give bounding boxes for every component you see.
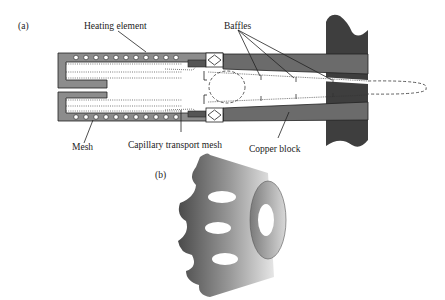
diagram-canvas — [0, 0, 445, 300]
panel-a-label: (a) — [18, 21, 29, 31]
baffle-3d-illustration — [178, 153, 286, 297]
mesh-label: Mesh — [72, 142, 93, 152]
panel-b-label: (b) — [155, 170, 166, 180]
baffles-label: Baffles — [224, 21, 251, 31]
capillary-transport-mesh-label: Capillary transport mesh — [128, 140, 222, 150]
heating-element-label: Heating element — [84, 21, 147, 31]
seal-diamonds — [206, 53, 223, 122]
leader-lines — [84, 30, 332, 143]
copper-block-label: Copper block — [249, 144, 300, 154]
dark-inserts — [188, 60, 206, 117]
nozzle-brackets — [204, 71, 207, 104]
